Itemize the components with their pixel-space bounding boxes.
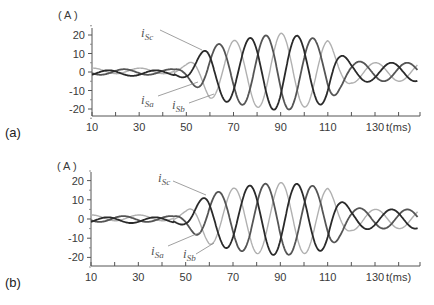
x-tick-label: 90 bbox=[275, 121, 287, 133]
y-tick-label: -10 bbox=[68, 232, 84, 244]
x-axis: 1030507090110130t(ms) bbox=[86, 112, 420, 133]
x-axis-title: t(ms) bbox=[386, 271, 411, 283]
label-isc: iSc bbox=[158, 170, 170, 187]
x-tick-label: 10 bbox=[86, 121, 98, 133]
x-tick-label: 70 bbox=[227, 271, 239, 283]
y-tick-label: 10 bbox=[73, 48, 85, 60]
y-tick-label: 0 bbox=[79, 66, 85, 78]
y-tick-label: 10 bbox=[72, 194, 84, 206]
y-tick-label: 0 bbox=[78, 213, 84, 225]
y-tick-label: -20 bbox=[69, 103, 85, 115]
label-isb: iSb bbox=[183, 246, 196, 263]
x-tick-label: 30 bbox=[132, 271, 144, 283]
x-tick-label: 130 bbox=[366, 271, 384, 283]
x-tick-label: 50 bbox=[180, 271, 192, 283]
y-tick-label: 20 bbox=[73, 29, 85, 41]
label-isa: iSa bbox=[151, 243, 164, 260]
y-axis: 20100-10-20 bbox=[68, 171, 91, 267]
curve-callouts: iSc iSa iSb bbox=[151, 170, 214, 263]
panel-label-a: (a) bbox=[5, 125, 21, 140]
panel-label-b: (b) bbox=[5, 275, 21, 290]
x-tick-label: 10 bbox=[85, 271, 97, 283]
figure: ( A ) 20100-10-20 1030507090110130t(ms) … bbox=[0, 0, 434, 305]
y-unit-label: ( A ) bbox=[58, 9, 78, 21]
x-tick-label: 70 bbox=[227, 121, 239, 133]
y-tick-label: 20 bbox=[72, 175, 84, 187]
label-isb: iSb bbox=[172, 97, 185, 114]
panel-b: ( A ) 20100-10-20 1030507090110130t(ms) … bbox=[5, 160, 420, 290]
label-isc: iSc bbox=[141, 25, 153, 42]
x-tick-label: 110 bbox=[319, 121, 337, 133]
x-axis-title: t(ms) bbox=[386, 121, 411, 133]
series-iSb bbox=[91, 184, 418, 255]
x-tick-label: 110 bbox=[319, 271, 337, 283]
panel-a: ( A ) 20100-10-20 1030507090110130t(ms) … bbox=[5, 9, 420, 140]
y-unit-label: ( A ) bbox=[57, 160, 77, 172]
x-tick-label: 30 bbox=[133, 121, 145, 133]
y-axis: 20100-10-20 bbox=[69, 26, 92, 119]
x-tick-label: 50 bbox=[180, 121, 192, 133]
x-tick-label: 90 bbox=[274, 271, 286, 283]
y-tick-label: -10 bbox=[69, 85, 85, 97]
waveforms bbox=[91, 183, 418, 255]
x-tick-label: 130 bbox=[366, 121, 384, 133]
y-tick-label: -20 bbox=[68, 251, 84, 263]
x-axis: 1030507090110130t(ms) bbox=[85, 262, 420, 283]
label-isa: iSa bbox=[141, 92, 154, 109]
